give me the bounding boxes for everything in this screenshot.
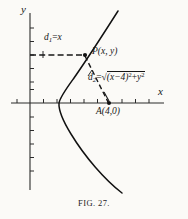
y-axis-label: y — [21, 4, 26, 15]
parabola-curve — [59, 11, 122, 193]
point-a-dot — [107, 101, 111, 105]
figure-27: y x d1=x P(x, y) d2=√(x−4)2+y2 A(4,0) FI… — [0, 0, 188, 219]
y-axis-ticks — [30, 28, 34, 171]
figure-caption: FIG. 27. — [0, 198, 188, 208]
figure-canvas — [0, 0, 188, 219]
radicand-term-b-exponent: 2 — [141, 71, 144, 78]
distance-d1-label: d1=x — [44, 33, 62, 44]
d1-rhs: x — [58, 32, 62, 42]
point-p-label: P(x, y) — [92, 47, 117, 57]
x-axis-label: x — [158, 86, 163, 97]
point-a-label: A(4,0) — [96, 107, 120, 117]
distance-d2-label: d2=√(x−4)2+y2 — [88, 71, 145, 83]
point-p-dot — [83, 53, 87, 57]
radicand-term-a: (x−4) — [107, 72, 129, 82]
x-axis-ticks — [17, 99, 149, 103]
radicand: (x−4)2+y2 — [107, 71, 145, 82]
